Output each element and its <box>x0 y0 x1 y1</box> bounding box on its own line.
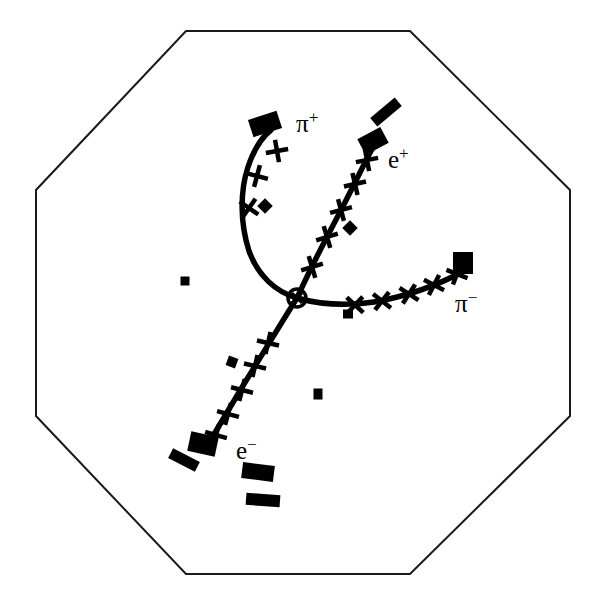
calo-bar-upper-right <box>370 98 402 127</box>
calorimeter-endpoint-block-pi-minus <box>453 252 473 274</box>
track-hit-marker <box>330 199 352 221</box>
particle-event-display: π+e+π−e− <box>0 0 596 607</box>
track-label-pi-plus: π+ <box>296 108 318 137</box>
track-e-minus <box>187 298 297 457</box>
track-path-e-plus <box>297 149 372 298</box>
isolated-hit-left <box>181 277 190 286</box>
track-hit-marker <box>344 173 366 195</box>
track-charge-e-plus: + <box>399 144 409 163</box>
detector-cross-section-svg: π+e+π−e− <box>0 0 596 607</box>
track-e-plus <box>297 127 389 298</box>
calo-bar-lower-center-b <box>246 493 281 507</box>
noise-hit-near-e-plus <box>342 220 358 236</box>
calorimeter-endpoint-block-pi-plus <box>248 111 282 137</box>
track-label-pi-minus: π− <box>455 288 477 317</box>
track-charge-pi-minus: − <box>468 288 478 307</box>
track-label-e-plus: e+ <box>388 144 409 173</box>
track-charge-e-minus: − <box>247 435 257 454</box>
track-hit-marker <box>316 226 338 248</box>
noise-hit-near-e-minus <box>226 356 239 369</box>
track-path-pi-plus <box>242 130 297 298</box>
isolated-hit-bottom-center <box>314 389 323 400</box>
track-charge-pi-plus: + <box>309 108 319 127</box>
track-pi-minus <box>297 252 473 313</box>
calo-bar-lower-center-a <box>241 462 275 482</box>
isolated-hit-below-pi-minus <box>343 310 353 319</box>
track-hit-marker <box>301 256 323 278</box>
noise-hit-near-pi-plus <box>257 198 273 214</box>
track-label-e-minus: e− <box>236 435 257 464</box>
tracks-layer <box>187 111 473 457</box>
calorimeter-endpoint-block-e-plus <box>357 127 388 155</box>
track-hit-marker <box>266 140 288 162</box>
